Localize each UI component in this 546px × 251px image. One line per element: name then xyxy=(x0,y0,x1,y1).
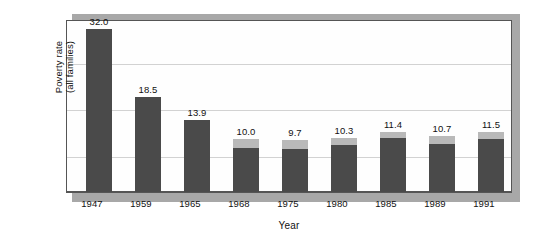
bar-stack-1980 xyxy=(331,138,357,192)
bar-value-1985: 11.4 xyxy=(384,119,402,130)
xtick-label-1965: 1965 xyxy=(170,198,210,209)
bar-value-1989: 10.7 xyxy=(433,123,452,134)
bar-lower-segment-1980 xyxy=(331,145,357,192)
bar-stack-1991 xyxy=(478,132,504,192)
xtick-label-1980: 1980 xyxy=(317,198,357,209)
y-axis-title-line1: Poverty rate xyxy=(53,17,64,117)
bar-value-1968: 10.0 xyxy=(237,126,256,137)
bar-value-1991: 11.5 xyxy=(482,119,500,130)
bar-stack-1989 xyxy=(429,136,455,192)
bar-lower-segment-1947 xyxy=(86,29,112,192)
xtick-label-1975: 1975 xyxy=(268,198,308,209)
bar-stack-1965 xyxy=(184,120,210,192)
bar-lower-segment-1975 xyxy=(282,149,308,192)
bar-lower-segment-1959 xyxy=(135,97,161,192)
xtick-label-1947: 1947 xyxy=(72,198,112,209)
bar-lower-segment-1968 xyxy=(233,148,259,192)
xtick-label-1959: 1959 xyxy=(121,198,161,209)
bar-lower-segment-1985 xyxy=(380,138,406,192)
bar-stack-1959 xyxy=(135,97,161,192)
y-axis-title: Poverty rate (all families) xyxy=(53,17,75,117)
bar-lower-segment-1991 xyxy=(478,139,504,192)
bar-stack-1975 xyxy=(282,140,308,192)
plot-area: 32.0 18.5 13.9 xyxy=(67,21,511,192)
bar-value-1980: 10.3 xyxy=(335,125,354,136)
bar-upper-segment-1975 xyxy=(282,140,308,149)
bar-stack-1968 xyxy=(233,139,259,192)
bar-upper-segment-1989 xyxy=(429,136,455,144)
poverty-rate-bar-chart-figure: 32.0 18.5 13.9 xyxy=(0,0,546,251)
bar-lower-segment-1965 xyxy=(184,120,210,192)
bar-stack-1985 xyxy=(380,132,406,192)
xtick-label-1989: 1989 xyxy=(415,198,455,209)
bars-layer: 32.0 18.5 13.9 xyxy=(67,21,511,192)
bar-stack-1947 xyxy=(86,29,112,192)
bar-upper-segment-1980 xyxy=(331,138,357,145)
bar-upper-segment-1968 xyxy=(233,139,259,148)
y-axis-title-line2: (all families) xyxy=(64,17,75,117)
bar-value-1959: 18.5 xyxy=(139,84,158,95)
bar-value-1965: 13.9 xyxy=(188,107,207,118)
xtick-label-1991: 1991 xyxy=(464,198,504,209)
bar-lower-segment-1989 xyxy=(429,144,455,192)
x-axis-title: Year xyxy=(66,220,512,231)
bar-value-1947: 32.0 xyxy=(90,16,109,27)
xtick-label-1985: 1985 xyxy=(366,198,406,209)
xtick-label-1968: 1968 xyxy=(219,198,259,209)
bar-value-1975: 9.7 xyxy=(288,127,302,138)
bar-upper-segment-1991 xyxy=(478,132,504,139)
plot-frame: 32.0 18.5 13.9 xyxy=(66,20,512,193)
